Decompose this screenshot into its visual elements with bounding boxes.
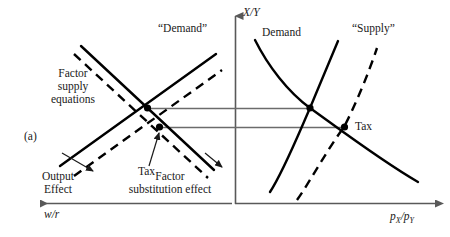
right-x-axis-label: pX/pY — [390, 210, 414, 227]
left-tax-arrow — [149, 133, 159, 166]
right-supply-label: “Supply” — [352, 22, 395, 35]
right-lower-equilibrium-point — [341, 123, 348, 130]
factor-supply-equations-line-2: supply — [30, 80, 116, 93]
right-tax-label: Tax — [355, 120, 372, 133]
curve-right-supply-solid — [270, 41, 338, 192]
factor-supply-equations-line-3: equations — [30, 93, 116, 106]
factor-supply-equations-line-1: Factor — [30, 67, 116, 80]
figure-canvas — [0, 0, 450, 237]
right-panel-curves — [255, 40, 418, 200]
curve-right-demand — [255, 40, 418, 182]
panel-label: (a) — [24, 130, 37, 143]
right-upper-equilibrium-point — [306, 104, 313, 111]
factor-substitution-effect-label: Factor substitution effect — [110, 170, 230, 196]
output-effect-line-2: Effect — [26, 183, 90, 196]
factor-supply-equations-label: Factor supply equations — [30, 67, 116, 106]
right-demand-label: Demand — [262, 26, 301, 39]
factor-substitution-effect-line-2: substitution effect — [110, 183, 230, 196]
left-x-axis-label: w/r — [44, 208, 59, 221]
axes-group — [40, 16, 436, 204]
output-effect-line-1: Output — [26, 170, 90, 183]
left-lower-equilibrium-point — [156, 123, 163, 130]
factor-substitution-effect-line-1: Factor — [110, 170, 230, 183]
economics-two-panel-figure: (a) “Demand” Factor supply equations Tax… — [0, 0, 450, 237]
output-effect-label: Output Effect — [26, 170, 90, 196]
left-upper-equilibrium-point — [144, 104, 151, 111]
left-demand-label: “Demand” — [158, 22, 207, 35]
y-axis-label: X/Y — [243, 6, 260, 19]
left-panel-curves — [60, 46, 222, 178]
right-x-axis-denominator-subscript: Y — [410, 216, 414, 225]
